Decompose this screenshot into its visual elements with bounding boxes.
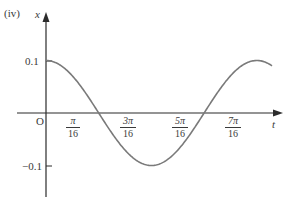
x-tick-label-3pi-16: 3π 16 (120, 116, 136, 139)
x-tick-label-7pi-16: 7π 16 (225, 116, 241, 139)
chart-canvas (0, 0, 286, 197)
x-axis-arrow-icon (273, 110, 283, 117)
origin-label: O (36, 116, 44, 127)
y-axis-arrow-icon (43, 12, 50, 22)
x-tick-label-5pi-16: 5π 16 (172, 116, 188, 139)
x-tick-label-pi-16: π 16 (66, 116, 80, 139)
y-tick-label-0.1: 0.1 (25, 56, 39, 67)
y-tick-label-neg-0.1: −0.1 (22, 161, 42, 172)
panel-label: (iv) (4, 8, 20, 19)
x-axis-label: t (272, 119, 275, 130)
y-axis-label: x (35, 9, 40, 20)
